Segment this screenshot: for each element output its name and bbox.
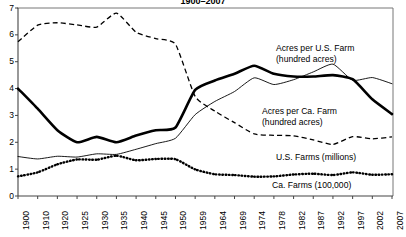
- annotation-line: U.S. Farms (millions): [276, 152, 356, 163]
- x-axis-tick-label: 1974: [258, 211, 267, 230]
- x-axis-tick-label: 1959: [199, 211, 208, 230]
- x-axis-tick-label: 2007: [396, 211, 405, 230]
- annotation-line: (hundred acres): [276, 54, 354, 65]
- x-axis-tick-label: 1997: [357, 211, 366, 230]
- plot-area: [0, 0, 406, 237]
- annotation-ca-farms: Ca. Farms (100,000): [272, 180, 351, 191]
- y-axis-tick-label: 6: [0, 30, 14, 39]
- x-axis-tick-label: 1992: [337, 211, 346, 230]
- annotation-us-farms: U.S. Farms (millions): [276, 152, 356, 163]
- annotation-line: Ca. Farms (100,000): [272, 180, 351, 191]
- annotation-line: (hundred acres): [262, 117, 337, 128]
- x-axis-tick-label: 1925: [81, 211, 90, 230]
- series-line: [18, 66, 392, 143]
- x-axis-tick-label: 1910: [42, 211, 51, 230]
- x-axis-tick-label: 1964: [219, 211, 228, 230]
- y-axis-tick-label: 0: [0, 192, 14, 201]
- x-axis-tick-label: 1920: [61, 211, 70, 230]
- x-axis-tick-label: 1935: [120, 211, 129, 230]
- x-axis-tick-label: 1969: [239, 211, 248, 230]
- x-axis-tick-label: 1978: [278, 211, 287, 230]
- x-axis-tick-label: 1945: [160, 211, 169, 230]
- chart-figure: 1900–2007 01234567 190019101920192519301…: [0, 0, 406, 237]
- x-axis-tick-label: 1940: [140, 211, 149, 230]
- y-axis-tick-label: 5: [0, 57, 14, 66]
- y-axis-tick-label: 3: [0, 111, 14, 120]
- x-axis-tick-label: 1982: [298, 211, 307, 230]
- annotation-line: Acres per U.S. Farm: [276, 43, 354, 54]
- annotation-acres-per-ca-farm: Acres per Ca. Farm(hundred acres): [262, 106, 337, 127]
- y-axis-tick-label: 7: [0, 4, 14, 13]
- x-axis-tick-label: 1930: [101, 211, 110, 230]
- y-axis-tick-label: 1: [0, 165, 14, 174]
- x-axis-tick-label: 2002: [376, 211, 385, 230]
- y-axis-tick-label: 4: [0, 84, 14, 93]
- annotation-acres-per-us-farm: Acres per U.S. Farm(hundred acres): [276, 43, 354, 64]
- x-axis-tick-label: 1900: [22, 211, 31, 230]
- y-axis-tick-label: 2: [0, 138, 14, 147]
- x-axis-tick-label: 1987: [317, 211, 326, 230]
- annotation-line: Acres per Ca. Farm: [262, 106, 337, 117]
- x-axis-tick-label: 1950: [179, 211, 188, 230]
